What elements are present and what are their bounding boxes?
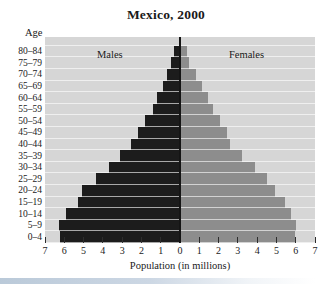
x-tick-label: 0 [173, 245, 187, 256]
age-group-label: 50–54 [2, 116, 42, 127]
age-group-label: 65–69 [2, 81, 42, 92]
axis-tick [83, 237, 84, 243]
x-tick-label: 4 [250, 245, 264, 256]
age-group-label: 5–9 [2, 220, 42, 231]
age-group-label: 45–49 [2, 127, 42, 138]
x-tick-label: 5 [77, 245, 91, 256]
x-tick-label: 1 [154, 245, 168, 256]
males-series-label: Males [97, 49, 123, 60]
x-tick-label: 2 [134, 245, 148, 256]
bottom-gradient-strip [0, 278, 332, 284]
females-series-label: Females [229, 49, 264, 60]
age-group-label: 40–44 [2, 139, 42, 150]
age-axis-title: Age [25, 27, 43, 38]
age-group-label: 55–59 [2, 104, 42, 115]
age-group-label: 20–24 [2, 185, 42, 196]
age-group-label: 70–74 [2, 69, 42, 80]
axis-tick [122, 237, 123, 243]
x-tick-label: 2 [212, 245, 226, 256]
x-tick-label: 5 [269, 245, 283, 256]
center-axis-line [179, 37, 181, 243]
axis-tick [218, 237, 219, 243]
axis-tick [102, 237, 103, 243]
age-group-label: 30–34 [2, 162, 42, 173]
x-tick-label: 1 [192, 245, 206, 256]
x-tick-label: 7 [38, 245, 52, 256]
x-tick-label: 6 [289, 245, 303, 256]
axis-tick [199, 237, 200, 243]
age-group-label: 10–14 [2, 209, 42, 220]
x-axis-title: Population (in millions) [130, 260, 230, 271]
x-tick-label: 7 [308, 245, 322, 256]
x-tick-label: 6 [57, 245, 71, 256]
age-group-label: 15–19 [2, 197, 42, 208]
x-tick-label: 3 [231, 245, 245, 256]
age-group-label: 80–84 [2, 46, 42, 57]
chart-title: Mexico, 2000 [0, 7, 332, 23]
x-tick-label: 3 [115, 245, 129, 256]
axis-tick [64, 237, 65, 243]
age-group-label: 60–64 [2, 93, 42, 104]
axis-tick [315, 237, 316, 243]
population-pyramid-figure: Mexico, 2000 Age Males Females 765432101… [0, 0, 332, 284]
axis-tick [45, 237, 46, 243]
axis-tick [257, 237, 258, 243]
age-group-label: 0–4 [2, 232, 42, 243]
axis-tick [141, 237, 142, 243]
plot-area: Males Females [45, 37, 315, 243]
age-group-label: 35–39 [2, 151, 42, 162]
x-tick-label: 4 [96, 245, 110, 256]
axis-tick [237, 237, 238, 243]
age-group-label: 25–29 [2, 174, 42, 185]
axis-tick [295, 237, 296, 243]
axis-tick [160, 237, 161, 243]
age-group-label: 75–79 [2, 58, 42, 69]
axis-tick [276, 237, 277, 243]
